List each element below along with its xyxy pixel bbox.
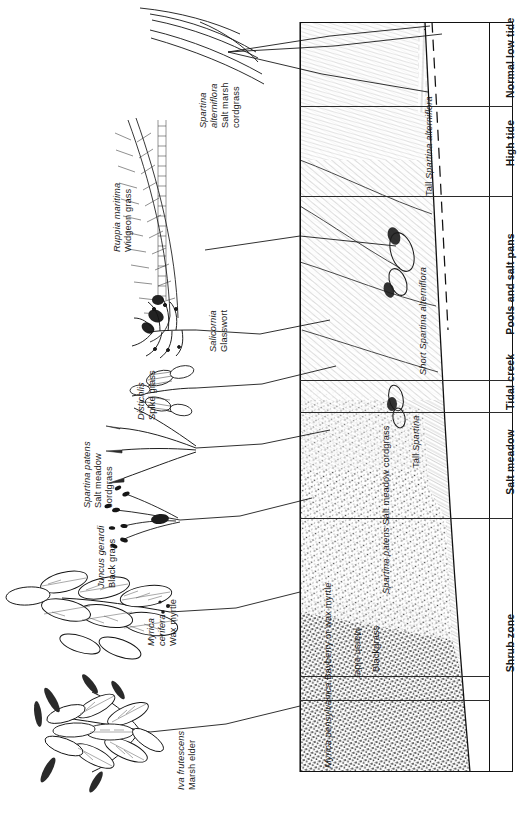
plant-label-distichlis: Distichlis Spike grass [136, 370, 158, 420]
plant-label-spartina-alterniflora: Spartina alterniflora Salt marsh cordgra… [198, 83, 242, 128]
specimen-spartina-patens [120, 408, 196, 478]
veg-label-tall-spartina-alterniflora: Tall Spartina alterniflora [424, 96, 435, 196]
plant-label-spartina-patens: Spartina patens Salt meadow cordgrass [82, 441, 115, 508]
zone-label-high-tide: High tide [505, 100, 517, 186]
plant-label-myrica-cerifera: Myrica cerifera Wax myrtle [146, 599, 179, 646]
zone-label-pools-and-salt-pans: Pools and salt pans [505, 194, 517, 374]
figure-canvas: Normal low tide High tide Pools and salt… [0, 0, 528, 822]
veg-label-marsh-elder: Marsh elder [352, 628, 363, 678]
plant-label-ruppia-maritima: Ruppia maritima Widgeon grass [112, 183, 134, 252]
veg-label-myrica-pensylvanica: Myrica pensylvanica Bayberry or wax myrt… [323, 582, 334, 768]
zone-label-shrub-zone: Shrub zone [505, 518, 517, 768]
marsh-scene-svg [0, 0, 528, 822]
zone-label-tidal-creek: Tidal creek [505, 380, 517, 410]
plant-label-salicornia: Salicornia Glasswort [208, 310, 230, 352]
veg-label-spartina-patens: Spartina patens Salt meadow cordgrass [381, 425, 392, 594]
veg-label-short-spartina-alterniflora: Short Spartina alterniflora [418, 267, 429, 375]
plant-label-iva-frutescens: Iva frutescens Marsh elder [176, 731, 198, 790]
specimen-salicornia [132, 298, 196, 358]
specimen-spartina-alterniflora [140, 8, 264, 84]
veg-label-blackgrass: Blackgrass [371, 626, 382, 672]
zone-label-normal-low-tide: Normal low tide [505, 18, 517, 98]
veg-label-tall-spartina: Tall Spartina [411, 416, 422, 468]
plant-label-juncus-gerardi: Juncus gerardi Black grass [96, 526, 118, 588]
marsh-illustration [0, 0, 528, 822]
specimen-iva-frutescens [33, 672, 167, 794]
zone-label-salt-meadow: Salt meadow [505, 410, 517, 514]
